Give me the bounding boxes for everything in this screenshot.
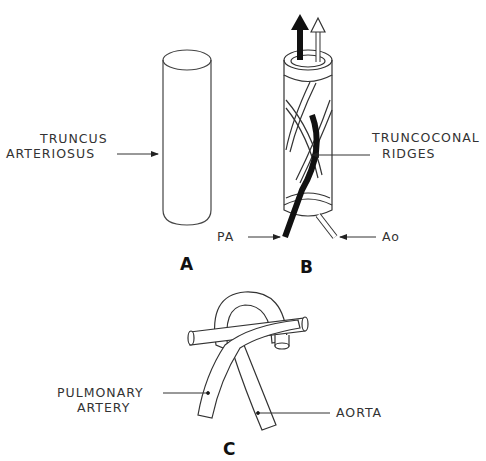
panel-c-vessels bbox=[188, 292, 308, 430]
dark-vessel-pulmonary bbox=[285, 14, 317, 237]
panel-a-cylinder bbox=[163, 50, 211, 225]
label-truncoconal: TRUNCOCONAL bbox=[371, 130, 480, 145]
panel-b-cylinder bbox=[284, 50, 332, 216]
panel-c-letter: C bbox=[223, 439, 235, 459]
label-truncus: TRUNCUS bbox=[39, 131, 108, 146]
label-aorta: AORTA bbox=[336, 405, 382, 420]
label-pa: PA bbox=[217, 229, 234, 244]
label-pulmonary: PULMONARY bbox=[57, 385, 144, 400]
label-artery: ARTERY bbox=[77, 400, 130, 415]
diagram-canvas: TRUNCUS ARTERIOSUS A TRUNCOCONAL RIDGES … bbox=[0, 0, 486, 461]
panel-c-pointer-lines bbox=[163, 392, 330, 415]
label-ridges: RIDGES bbox=[382, 146, 436, 161]
panel-a-letter: A bbox=[180, 254, 194, 274]
panel-b-letter: B bbox=[300, 257, 313, 277]
label-ao: Ao bbox=[382, 229, 400, 244]
label-arteriosus: ARTERIOSUS bbox=[6, 146, 95, 161]
